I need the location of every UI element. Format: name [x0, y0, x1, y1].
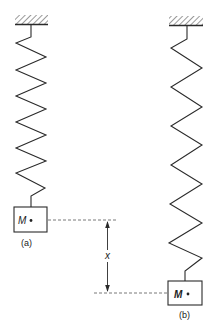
caption-a: (a): [21, 238, 32, 248]
displacement-annotation: x: [48, 220, 167, 293]
ceiling-support-a: [15, 15, 48, 24]
caption-b: (b): [179, 310, 190, 320]
panel-b: M (b): [168, 16, 203, 320]
mass-label-a: M: [18, 215, 27, 226]
spring-a: [16, 25, 46, 207]
arrowhead-up-icon: [105, 221, 110, 228]
arrowhead-down-icon: [105, 285, 110, 292]
spring-b: [169, 26, 202, 281]
mass-label-b: M: [174, 289, 183, 300]
ceiling-support-b: [169, 16, 203, 25]
center-of-mass-dot-a: [30, 219, 33, 222]
spring-mass-diagram: M (a) M (b) x: [0, 0, 215, 324]
displacement-label: x: [104, 250, 111, 261]
panel-a: M (a): [14, 15, 48, 248]
center-of-mass-dot-b: [187, 293, 190, 296]
